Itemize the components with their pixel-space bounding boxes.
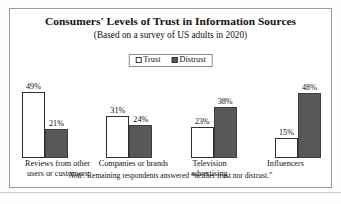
legend-label-distrust: Distrust — [179, 56, 205, 64]
bar-group-influencers: 15% 48% — [275, 93, 321, 158]
bar-group-reviews: 49% 21% — [22, 92, 68, 158]
bar-value-companies-distrust: 24% — [133, 116, 148, 124]
category-label-reviews-line1: Reviews from other — [25, 159, 90, 168]
chart-title: Consumers' Levels of Trust in Informatio… — [10, 15, 331, 27]
bar-wrap-influencers-trust: 15% — [275, 138, 298, 158]
chart-subtitle: (Based on a survey of US adults in 2020) — [10, 30, 331, 40]
bar-influencers-distrust[interactable] — [298, 93, 321, 158]
category-label-companies-line1: Companies or brands — [99, 159, 169, 168]
chart-page: Consumers' Levels of Trust in Informatio… — [0, 0, 341, 204]
legend-label-trust: Trust — [143, 56, 160, 64]
bar-value-companies-trust: 31% — [110, 107, 125, 115]
note-label: Note — [69, 171, 83, 180]
bar-group-companies: 31% 24% — [106, 116, 152, 158]
chart-legend: Trust Distrust — [128, 54, 213, 67]
bar-wrap-reviews-trust: 49% — [22, 92, 45, 158]
legend-swatch-distrust — [171, 57, 177, 63]
bar-companies-distrust[interactable] — [129, 125, 152, 158]
chart-note: Note: Remaining respondents answered “ne… — [10, 171, 331, 180]
bar-value-television-trust: 23% — [195, 118, 210, 126]
bar-wrap-companies-trust: 31% — [106, 116, 129, 158]
bar-value-influencers-trust: 15% — [279, 129, 294, 137]
bar-wrap-reviews-distrust: 21% — [45, 129, 68, 158]
bar-group-television: 23% 38% — [191, 107, 237, 158]
bar-value-reviews-distrust: 21% — [49, 120, 64, 128]
legend-item-distrust[interactable]: Distrust — [171, 56, 205, 64]
figure-frame: Consumers' Levels of Trust in Informatio… — [9, 8, 332, 188]
bar-wrap-television-trust: 23% — [191, 127, 214, 158]
bar-television-distrust[interactable] — [214, 107, 237, 158]
bar-wrap-television-distrust: 38% — [214, 107, 237, 158]
plot-area: 49% 21% 31% 24% — [22, 75, 321, 158]
bar-reviews-distrust[interactable] — [45, 129, 68, 158]
legend-swatch-trust — [135, 57, 141, 63]
bar-companies-trust[interactable] — [106, 116, 129, 158]
bar-influencers-trust[interactable] — [275, 138, 298, 158]
bar-groups: 49% 21% 31% 24% — [22, 75, 321, 158]
bar-value-influencers-distrust: 48% — [302, 84, 317, 92]
note-text: : Remaining respondents answered “neithe… — [83, 171, 272, 180]
bar-value-reviews-trust: 49% — [26, 83, 41, 91]
bar-wrap-influencers-distrust: 48% — [298, 93, 321, 158]
bar-reviews-trust[interactable] — [22, 92, 45, 158]
legend-item-trust[interactable]: Trust — [135, 56, 160, 64]
bar-value-television-distrust: 38% — [218, 98, 233, 106]
category-label-influencers-line1: Influencers — [267, 159, 304, 168]
bar-television-trust[interactable] — [191, 127, 214, 158]
bottom-divider — [0, 192, 341, 193]
bar-wrap-companies-distrust: 24% — [129, 125, 152, 158]
